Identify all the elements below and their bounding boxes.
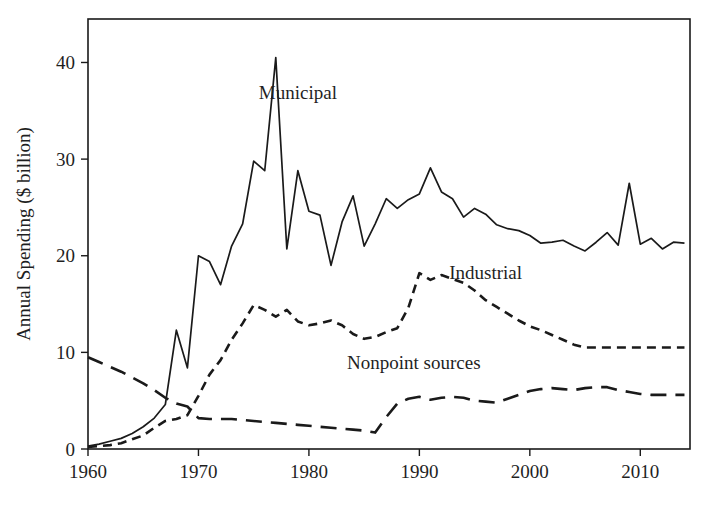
x-tick-label: 1970 bbox=[179, 461, 217, 482]
chart-container: 010203040 196019701980199020002010 Munic… bbox=[0, 0, 719, 507]
x-tick-label: 2010 bbox=[621, 461, 659, 482]
y-tick-label: 10 bbox=[56, 342, 75, 363]
y-tick-label: 30 bbox=[56, 149, 75, 170]
y-axis-ticks: 010203040 bbox=[56, 52, 88, 460]
x-tick-label: 1980 bbox=[290, 461, 328, 482]
y-tick-label: 40 bbox=[56, 52, 75, 73]
x-tick-label: 2000 bbox=[511, 461, 549, 482]
series-label-nonpoint-sources: Nonpoint sources bbox=[347, 352, 481, 373]
y-tick-label: 0 bbox=[66, 439, 76, 460]
x-axis-ticks: 196019701980199020002010 bbox=[69, 449, 659, 482]
series-label-municipal: Municipal bbox=[259, 82, 337, 103]
x-tick-label: 1960 bbox=[69, 461, 107, 482]
x-tick-label: 1990 bbox=[400, 461, 438, 482]
series-line-municipal bbox=[88, 58, 684, 446]
y-tick-label: 20 bbox=[56, 245, 75, 266]
series-lines bbox=[88, 58, 684, 447]
series-annotations: MunicipalIndustrialNonpoint sources bbox=[259, 82, 522, 373]
plot-frame bbox=[88, 19, 690, 449]
series-label-industrial: Industrial bbox=[449, 262, 522, 283]
y-axis-title: Annual Spending ($ billion) bbox=[13, 127, 35, 341]
annual-spending-line-chart: 010203040 196019701980199020002010 Munic… bbox=[0, 0, 719, 507]
